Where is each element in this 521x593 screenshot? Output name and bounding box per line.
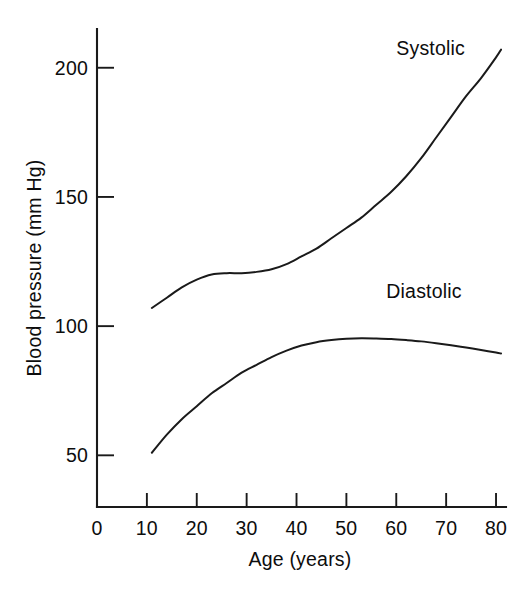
- y-tick-label-200: 200: [55, 57, 88, 79]
- blood-pressure-vs-age-figure: 50100150200 01020304050607080 Blood pres…: [0, 0, 521, 593]
- x-tick-label-10: 10: [136, 517, 158, 539]
- y-tick-label-100: 100: [55, 315, 88, 337]
- x-tick-label-40: 40: [285, 517, 307, 539]
- x-tick-label-70: 70: [435, 517, 457, 539]
- series-line-diastolic: [152, 338, 501, 452]
- x-tick-label-20: 20: [186, 517, 208, 539]
- x-tick-label-0: 0: [91, 517, 102, 539]
- series-line-systolic: [152, 50, 501, 308]
- x-tick-label-50: 50: [335, 517, 357, 539]
- x-tick-label-80: 80: [485, 517, 507, 539]
- x-axis-title: Age (years): [249, 548, 352, 570]
- chart-canvas: 50100150200 01020304050607080 Blood pres…: [0, 0, 521, 593]
- y-tick-label-50: 50: [66, 444, 88, 466]
- y-axis-tick-labels: 50100150200: [55, 57, 88, 467]
- data-series-group: [152, 50, 501, 453]
- y-axis-ticks: [97, 68, 114, 456]
- x-tick-label-60: 60: [385, 517, 407, 539]
- series-label-systolic: Systolic: [396, 37, 465, 59]
- x-axis-ticks: [97, 493, 496, 507]
- series-label-diastolic: Diastolic: [386, 280, 462, 302]
- y-axis-title: Blood pressure (mm Hg): [23, 160, 45, 377]
- axis-group: [97, 29, 506, 507]
- series-inline-labels: SystolicDiastolic: [386, 37, 465, 302]
- x-tick-label-30: 30: [236, 517, 258, 539]
- x-axis-tick-labels: 01020304050607080: [91, 517, 507, 539]
- y-tick-label-150: 150: [55, 186, 88, 208]
- page-bottom-margin: [0, 581, 521, 593]
